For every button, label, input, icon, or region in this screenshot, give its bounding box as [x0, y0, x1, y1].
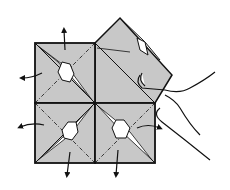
raised-flap [95, 18, 172, 103]
origami-diagram [0, 0, 230, 190]
quadrant-bottom-left [35, 103, 95, 163]
quadrant-bottom-right [95, 103, 155, 163]
quadrant-top-left [35, 43, 95, 103]
